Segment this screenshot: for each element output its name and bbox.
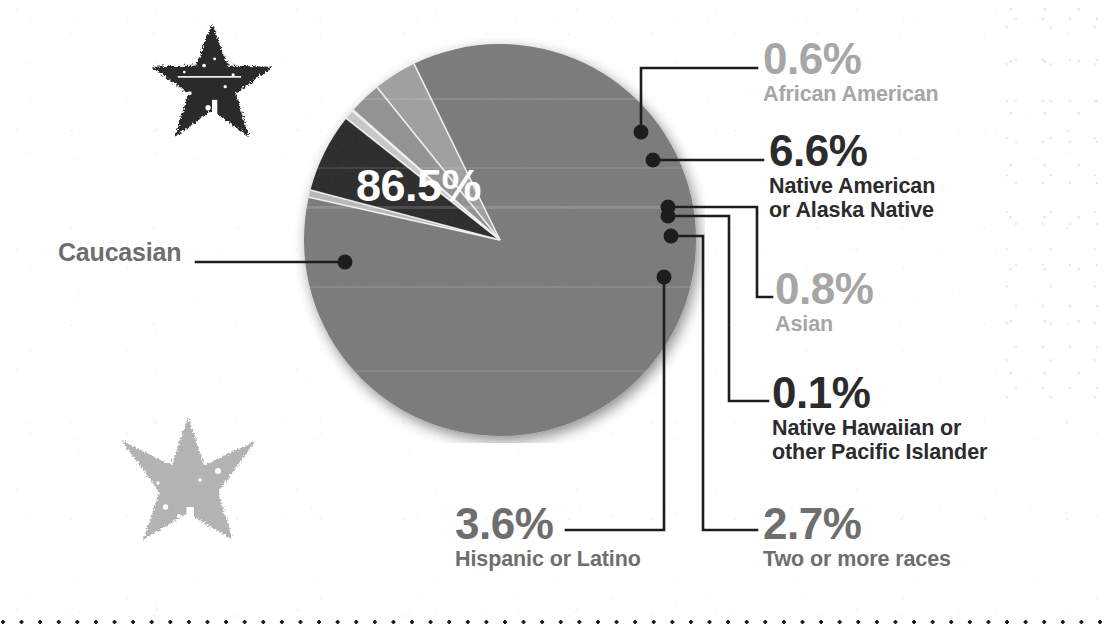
callout-label-caucasian: Caucasian [58,238,181,267]
paper-speckle-right [997,0,1107,420]
callout-native-american-name: Native American or Alaska Native [769,174,935,222]
callout-asian-pct: 0.8% [775,268,873,310]
dotted-rule-footer [0,619,1107,625]
callout-native-hawaiian-pct: 0.1% [772,372,987,414]
pie-slices-group [295,38,705,443]
callout-native-hawaiian-name: Native Hawaiian or other Pacific Islande… [772,416,987,464]
callout-african-american-name: African American [763,82,939,106]
callout-native-hawaiian: 0.1% Native Hawaiian or other Pacific Is… [772,372,987,464]
callout-asian: 0.8% Asian [775,268,873,336]
infographic-canvas: 86.5% Caucasian [0,0,1107,634]
callout-native-american: 6.6% Native American or Alaska Native [769,130,935,222]
pie-chart-svg [295,38,705,443]
callout-african-american: 0.6% African American [763,38,939,106]
callout-hispanic-latino: 3.6% Hispanic or Latino [455,503,641,571]
callout-two-or-more: 2.7% Two or more races [763,503,951,571]
star-top-decor [146,18,278,150]
callout-african-american-pct: 0.6% [763,38,939,80]
pie-slice-label-caucasian-pct: 86.5% [356,160,481,212]
callout-two-or-more-name: Two or more races [763,547,951,571]
callout-asian-name: Asian [775,312,873,336]
callout-native-american-pct: 6.6% [769,130,935,172]
callout-hispanic-latino-name: Hispanic or Latino [455,547,641,571]
callout-two-or-more-pct: 2.7% [763,503,951,545]
callout-hispanic-latino-pct: 3.6% [455,503,641,545]
pie-chart [295,38,705,443]
star-bottom-decor [112,408,264,558]
